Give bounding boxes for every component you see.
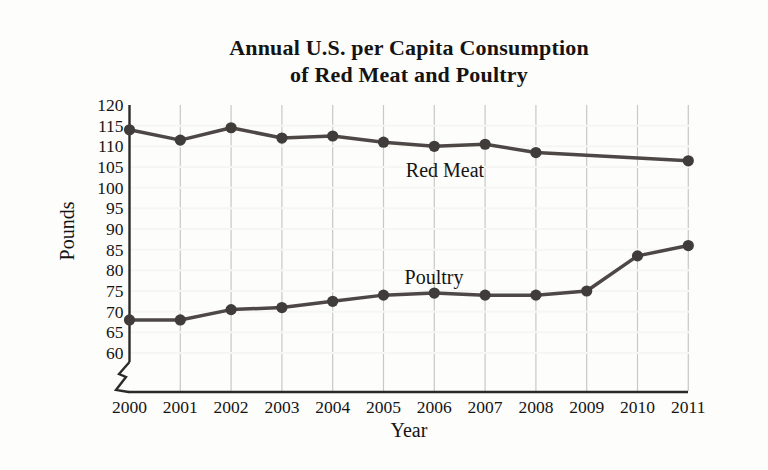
y-tick-label-120: 120 (97, 95, 124, 115)
series-label-poultry: Poultry (405, 266, 464, 289)
red-meat-point-2001 (175, 135, 186, 146)
x-tick-label-2002: 2002 (214, 397, 249, 417)
red-meat-point-2002 (226, 122, 237, 133)
poultry-point-2008 (530, 290, 541, 301)
poultry-point-2010 (632, 250, 643, 261)
poultry-point-2005 (378, 290, 389, 301)
x-tick-label-2005: 2005 (366, 397, 401, 417)
red-meat-point-2011 (683, 155, 694, 166)
x-tick-label-2001: 2001 (163, 397, 198, 417)
red-meat-point-2005 (378, 137, 389, 148)
y-tick-label-75: 75 (106, 281, 124, 301)
y-tick-label-65: 65 (106, 322, 124, 342)
red-meat-point-2003 (276, 132, 287, 143)
poultry-point-2001 (175, 314, 186, 325)
red-meat-point-2004 (327, 130, 338, 141)
axis-break-icon (116, 362, 130, 392)
red-meat-line (130, 128, 689, 161)
y-tick-label-110: 110 (98, 136, 124, 156)
y-tick-label-85: 85 (106, 240, 124, 260)
y-tick-label-105: 105 (97, 157, 124, 177)
line-chart-canvas: 1201151101051009590858075706560200020012… (0, 0, 768, 470)
poultry-point-2009 (581, 285, 592, 296)
poultry-point-2000 (124, 314, 135, 325)
x-tick-label-2009: 2009 (569, 397, 604, 417)
y-tick-label-100: 100 (97, 178, 124, 198)
poultry-point-2011 (683, 240, 694, 251)
ylabel-pounds: Pounds (56, 201, 78, 260)
x-tick-label-2011: 2011 (671, 397, 705, 417)
xlabel-year: Year (390, 419, 427, 441)
red-meat-point-2006 (429, 141, 440, 152)
x-tick-label-2007: 2007 (468, 397, 503, 417)
chart-figure: Annual U.S. per Capita Consumption of Re… (0, 0, 768, 470)
series-label-red-meat: Red Meat (406, 159, 485, 181)
y-tick-label-90: 90 (106, 219, 124, 239)
red-meat-point-2007 (480, 139, 491, 150)
x-tick-label-2010: 2010 (620, 397, 655, 417)
poultry-point-2003 (276, 302, 287, 313)
x-tick-label-2000: 2000 (112, 397, 147, 417)
poultry-point-2007 (480, 290, 491, 301)
y-tick-label-115: 115 (98, 116, 124, 136)
x-tick-label-2006: 2006 (417, 397, 452, 417)
x-tick-label-2004: 2004 (315, 397, 350, 417)
red-meat-point-2000 (124, 124, 135, 135)
poultry-point-2002 (226, 304, 237, 315)
x-tick-label-2008: 2008 (518, 397, 553, 417)
y-tick-label-80: 80 (106, 260, 124, 280)
poultry-point-2006 (429, 287, 440, 298)
y-tick-label-70: 70 (106, 302, 124, 322)
red-meat-point-2008 (530, 147, 541, 158)
y-tick-label-60: 60 (106, 343, 124, 363)
poultry-point-2004 (327, 296, 338, 307)
y-tick-label-95: 95 (106, 198, 124, 218)
x-tick-label-2003: 2003 (264, 397, 299, 417)
